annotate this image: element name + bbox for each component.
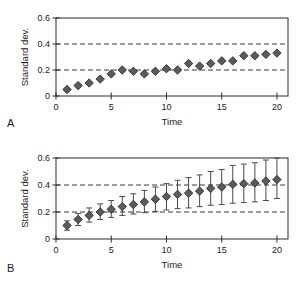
data-point — [118, 66, 126, 74]
data-point — [262, 50, 270, 58]
data-point — [140, 70, 148, 78]
plot-frame — [56, 158, 288, 239]
data-point — [63, 221, 71, 229]
data-point — [218, 57, 226, 65]
panel-b-letter: B — [7, 262, 15, 274]
y-ticklabel-2: 0.4 — [37, 180, 50, 190]
data-point — [162, 192, 170, 200]
x-axis-title: Time — [162, 259, 183, 270]
data-point — [129, 200, 137, 208]
panel-b-plot: 00.20.40.605101520TimeStandard dev. — [0, 138, 301, 285]
y-ticklabel-3: 0.6 — [37, 153, 50, 163]
x-ticklabel-0: 0 — [53, 245, 58, 255]
data-point — [273, 49, 281, 57]
x-ticklabel-3: 15 — [217, 245, 227, 255]
data-point — [118, 202, 126, 210]
data-point — [151, 67, 159, 75]
data-point — [262, 177, 270, 185]
data-point — [74, 81, 82, 89]
x-ticklabel-4: 20 — [272, 102, 282, 112]
y-ticklabel-0: 0 — [45, 234, 50, 244]
data-point — [206, 59, 214, 67]
data-point — [206, 184, 214, 192]
x-ticklabel-2: 10 — [161, 102, 171, 112]
data-point — [74, 215, 82, 223]
y-ticklabel-2: 0.4 — [37, 39, 50, 49]
marker-group — [63, 175, 281, 229]
x-ticklabel-0: 0 — [53, 102, 58, 112]
panel-a-plot: 00.20.40.605101520TimeStandard dev. — [0, 0, 301, 140]
y-ticklabel-1: 0.2 — [37, 65, 50, 75]
data-point — [107, 70, 115, 78]
panel-a-letter: A — [7, 117, 15, 129]
data-point — [273, 175, 281, 183]
panel-a: 00.20.40.605101520TimeStandard dev. A — [0, 0, 301, 140]
data-point — [229, 180, 237, 188]
data-point — [129, 67, 137, 75]
data-point — [251, 52, 259, 60]
figure-container: 00.20.40.605101520TimeStandard dev. A 00… — [0, 0, 301, 285]
x-ticklabel-1: 5 — [109, 245, 114, 255]
panel-b: 00.20.40.605101520TimeStandard dev. — [0, 138, 301, 285]
data-point — [240, 52, 248, 60]
x-ticklabel-3: 15 — [217, 102, 227, 112]
data-point — [173, 190, 181, 198]
data-point — [151, 195, 159, 203]
data-point — [195, 62, 203, 70]
data-point — [251, 179, 259, 187]
data-point — [85, 79, 93, 87]
x-ticklabel-4: 20 — [272, 245, 282, 255]
data-point — [229, 57, 237, 65]
data-point — [140, 198, 148, 206]
data-point — [162, 65, 170, 73]
data-point — [195, 187, 203, 195]
data-point — [96, 75, 104, 83]
data-point — [96, 208, 104, 216]
data-point — [240, 179, 248, 187]
y-axis-title: Standard dev. — [19, 28, 30, 86]
errorbar-group — [64, 158, 280, 230]
x-ticklabel-1: 5 — [109, 102, 114, 112]
data-point — [184, 59, 192, 67]
data-point — [184, 189, 192, 197]
data-point — [218, 183, 226, 191]
y-ticklabel-0: 0 — [45, 91, 50, 101]
y-axis-title: Standard dev. — [19, 169, 30, 227]
marker-group — [63, 49, 281, 94]
data-point — [173, 66, 181, 74]
x-ticklabel-2: 10 — [161, 245, 171, 255]
data-point — [63, 85, 71, 93]
y-ticklabel-3: 0.6 — [37, 13, 50, 23]
y-ticklabel-1: 0.2 — [37, 207, 50, 217]
x-axis-title: Time — [162, 116, 183, 127]
